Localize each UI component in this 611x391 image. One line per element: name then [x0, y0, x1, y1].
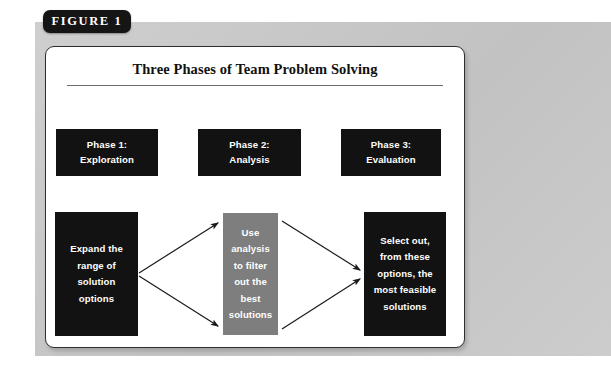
select-line-3: options, the — [374, 266, 437, 283]
arrow-filter-to-select-lower — [282, 279, 360, 329]
phase-2-line-1: Phase 2: — [229, 138, 269, 153]
phase-2-line-2: Analysis — [229, 153, 269, 168]
phase-box-2: Phase 2: Analysis — [198, 129, 301, 176]
arrow-expand-to-filter-lower — [139, 276, 218, 326]
figure-title: Three Phases of Team Problem Solving — [46, 61, 464, 78]
phase-3-line-1: Phase 3: — [371, 138, 411, 153]
flow-box-expand-options: Expand the range of solution options — [55, 212, 138, 336]
expand-line-4: options — [70, 291, 123, 308]
arrow-expand-to-filter-upper — [139, 223, 218, 273]
expand-line-3: solution — [70, 274, 123, 291]
phase-1-line-1: Phase 1: — [87, 138, 127, 153]
flow-box-select-options: Select out, from these options, the most… — [364, 212, 446, 336]
filter-line-4: out the — [229, 274, 273, 291]
select-line-2: from these — [374, 249, 437, 266]
select-line-4: most feasible — [374, 282, 437, 299]
flow-box-filter-options: Use analysis to filter out the best solu… — [223, 213, 278, 335]
phase-box-1: Phase 1: Exploration — [56, 129, 158, 176]
filter-line-6: solutions — [229, 307, 273, 324]
phase-1-line-2: Exploration — [80, 153, 134, 168]
phase-3-line-2: Evaluation — [366, 153, 416, 168]
figure-number-label: FIGURE 1 — [52, 14, 123, 29]
title-divider — [67, 85, 443, 86]
phase-box-3: Phase 3: Evaluation — [341, 129, 441, 176]
filter-line-3: to filter — [229, 258, 273, 275]
figure-number-tab: FIGURE 1 — [43, 10, 131, 33]
arrow-filter-to-select-upper — [282, 221, 360, 270]
expand-line-2: range of — [70, 258, 123, 275]
filter-line-1: Use — [229, 225, 273, 242]
select-line-1: Select out, — [374, 233, 437, 250]
filter-line-2: analysis — [229, 241, 273, 258]
figure-card: Three Phases of Team Problem Solving Pha… — [45, 46, 465, 348]
expand-line-1: Expand the — [70, 241, 123, 258]
select-line-5: solutions — [374, 299, 437, 316]
filter-line-5: best — [229, 291, 273, 308]
